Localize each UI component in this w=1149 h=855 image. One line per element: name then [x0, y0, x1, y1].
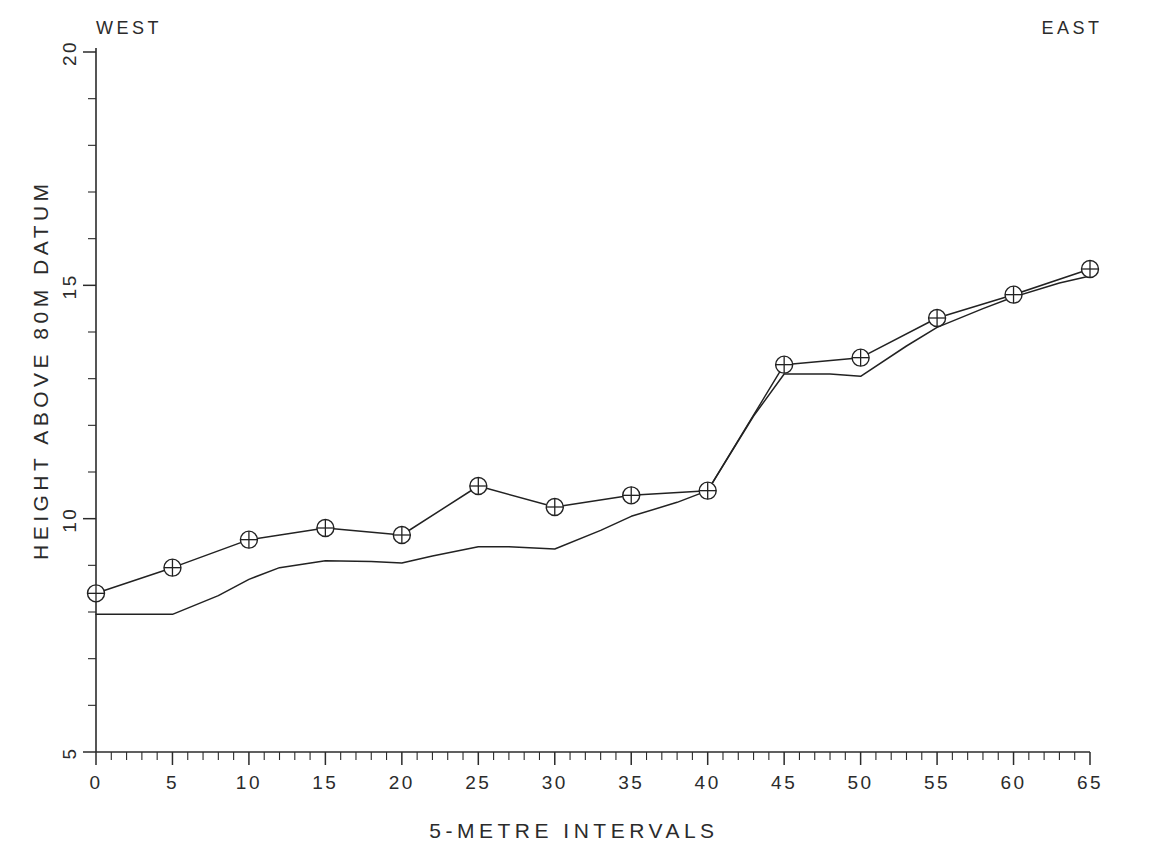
- x-tick-label: 5: [166, 772, 179, 793]
- x-tick-label: 65: [1077, 772, 1103, 793]
- x-tick-label: 25: [465, 772, 491, 793]
- x-tick-label: 30: [542, 772, 568, 793]
- series-line-reference-profile: [96, 276, 1090, 614]
- x-tick-label: 60: [1000, 772, 1026, 793]
- x-tick-label: 35: [618, 772, 644, 793]
- x-tick-label: 20: [389, 772, 415, 793]
- y-tick-label: 5: [59, 746, 80, 759]
- data-point-marker: [699, 482, 716, 499]
- x-axis-tick-labels: 05101520253035404550556065: [89, 772, 1103, 793]
- chart-container: WEST EAST HEIGHT ABOVE 80M DATUM 5-METRE…: [0, 0, 1149, 855]
- data-point-marker: [852, 349, 869, 366]
- data-point-marker: [1082, 261, 1099, 278]
- x-tick-label: 55: [924, 772, 950, 793]
- y-axis-tick-labels: 5101520: [59, 40, 80, 760]
- y-axis-ticks: [83, 52, 96, 752]
- data-point-marker: [929, 310, 946, 327]
- x-tick-label: 15: [312, 772, 338, 793]
- x-axis-ticks: [96, 752, 1090, 765]
- x-tick-label: 10: [236, 772, 262, 793]
- data-point-marker: [240, 531, 257, 548]
- x-tick-label: 0: [89, 772, 102, 793]
- x-tick-label: 45: [771, 772, 797, 793]
- x-tick-label: 40: [695, 772, 721, 793]
- data-point-marker: [623, 487, 640, 504]
- east-label: EAST: [1041, 18, 1102, 38]
- y-tick-label: 20: [59, 40, 80, 66]
- y-tick-label: 15: [59, 273, 80, 299]
- line-chart: WEST EAST HEIGHT ABOVE 80M DATUM 5-METRE…: [0, 0, 1149, 855]
- data-point-marker: [164, 559, 181, 576]
- data-point-marker: [393, 527, 410, 544]
- y-axis-title: HEIGHT ABOVE 80M DATUM: [29, 179, 52, 560]
- x-axis-title: 5-METRE INTERVALS: [429, 819, 718, 842]
- y-tick-label: 10: [59, 507, 80, 533]
- data-point-marker: [317, 520, 334, 537]
- x-tick-label: 50: [848, 772, 874, 793]
- data-point-markers: [88, 261, 1099, 602]
- data-point-marker: [470, 478, 487, 495]
- data-point-marker: [776, 356, 793, 373]
- data-point-marker: [88, 585, 105, 602]
- data-point-marker: [546, 499, 563, 516]
- west-label: WEST: [96, 18, 162, 38]
- data-point-marker: [1005, 286, 1022, 303]
